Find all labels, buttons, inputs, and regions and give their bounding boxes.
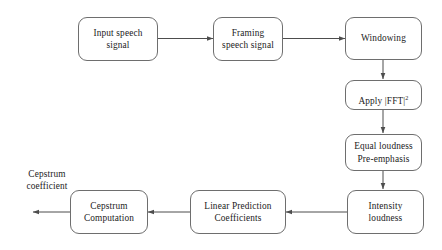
flowchart-canvas: Input speech signal Framing speech signa…	[0, 0, 442, 250]
node-windowing[interactable]: Windowing	[345, 17, 422, 60]
node-apply-fft[interactable]: Apply |FFT|2	[345, 80, 422, 110]
node-windowing-label: Windowing	[361, 32, 406, 44]
node-input-speech-signal[interactable]: Input speech signal	[78, 17, 158, 61]
node-framing-speech-signal-label: Framing speech signal	[222, 27, 274, 51]
node-cepstrum-computation-label: Cepstrum Computation	[84, 200, 134, 224]
node-apply-fft-label: Apply |FFT|	[358, 96, 405, 106]
node-equal-loudness-pre-emphasis-label: Equal loudness Pre-emphasis	[354, 140, 413, 164]
node-intensity-loudness-label: Intensity loudness	[369, 200, 403, 224]
node-cepstrum-computation[interactable]: Cepstrum Computation	[70, 190, 148, 234]
node-intensity-loudness[interactable]: Intensity loudness	[347, 190, 424, 234]
output-label-cepstrum-coefficient: Cepstrum coefficient	[12, 168, 82, 193]
node-equal-loudness-pre-emphasis[interactable]: Equal loudness Pre-emphasis	[345, 134, 422, 171]
node-framing-speech-signal[interactable]: Framing speech signal	[213, 17, 283, 61]
node-linear-prediction-coefficients[interactable]: Linear Prediction Coefficients	[190, 190, 286, 234]
node-linear-prediction-coefficients-label: Linear Prediction Coefficients	[204, 200, 271, 224]
node-input-speech-signal-label: Input speech signal	[93, 27, 142, 51]
node-apply-fft-superscript: 2	[405, 94, 408, 101]
